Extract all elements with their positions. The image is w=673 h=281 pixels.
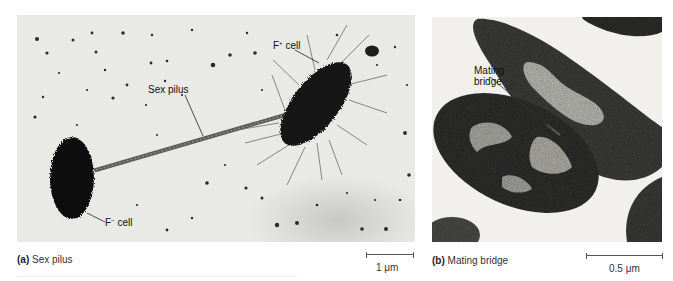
f-plus-cell <box>267 50 365 157</box>
scale-bar-a <box>366 252 414 258</box>
micrograph-sex-pilus: F+ cell Sex pilus F− cell <box>17 15 415 242</box>
caption-panel-b: (b) Mating bridge <box>432 255 508 266</box>
label-mating-bridge-line1: Mating <box>474 65 504 76</box>
scale-bar-a-label: 1 μm <box>376 262 398 273</box>
debris-blob <box>365 46 379 57</box>
micrograph-mating-bridge-image <box>432 17 662 242</box>
bottom-right-cell <box>626 177 662 242</box>
scale-bar-b-label: 0.5 μm <box>609 263 640 274</box>
micrograph-sex-pilus-image <box>17 15 415 242</box>
caption-panel-a: (a) Sex pilus <box>17 254 73 265</box>
scale-bar-b <box>586 253 663 259</box>
faint-caption-line <box>17 276 297 277</box>
bottom-left-cell <box>432 217 480 242</box>
corner-cell <box>582 17 662 36</box>
label-sex-pilus: Sex pilus <box>148 85 189 95</box>
label-mating-bridge-line2: bridge <box>474 76 504 87</box>
label-f-plus-cell: F+ cell <box>273 40 300 51</box>
f-minus-cell <box>50 137 94 219</box>
micrograph-mating-bridge: Mating bridge <box>432 17 662 242</box>
label-mating-bridge: Mating bridge <box>474 65 504 87</box>
label-f-minus-cell: F− cell <box>105 217 132 228</box>
